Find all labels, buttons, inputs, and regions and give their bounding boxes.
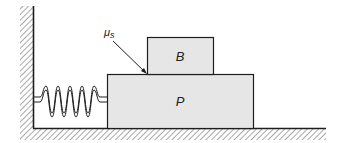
- floor-hatch: [20, 128, 326, 140]
- friction-coefficient-label: μs: [103, 26, 115, 40]
- block-p-label: P: [176, 94, 185, 109]
- mu-subscript: s: [110, 30, 115, 40]
- spring: [34, 86, 107, 117]
- wall-hatch: [20, 6, 33, 128]
- block-b-label: B: [176, 49, 185, 64]
- mu-symbol: μ: [103, 26, 110, 38]
- friction-leader-line: [113, 41, 146, 73]
- spring-block-diagram: B P μs: [0, 0, 340, 143]
